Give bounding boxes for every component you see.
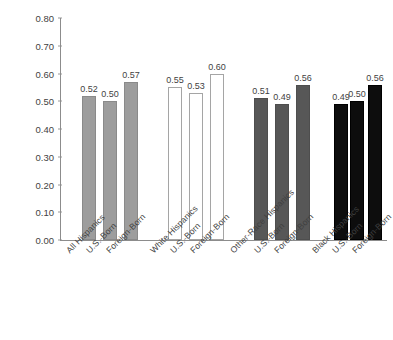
dissimilarity-score-bar-chart: Dissimilarity Score 0.800.700.600.500.40… <box>0 0 391 340</box>
x-axis-label-group: All HispanicsU.S.-BornForeign-BornWhite … <box>0 0 391 340</box>
